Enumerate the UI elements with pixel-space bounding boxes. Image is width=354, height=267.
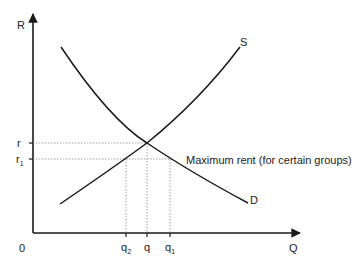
r-label: r xyxy=(17,137,21,149)
rent-control-diagram: R Q 0 S D r r1 q2 q q1 Maximum rent (for… xyxy=(0,0,354,267)
q1-label: q1 xyxy=(165,241,175,255)
supply-curve xyxy=(60,47,240,204)
maximum-rent-annotation: Maximum rent (for certain groups) xyxy=(186,154,352,166)
demand-label: D xyxy=(250,194,258,206)
y-axis-label: R xyxy=(17,19,25,31)
q-label: q xyxy=(144,241,150,253)
q2-label: q2 xyxy=(121,241,131,255)
demand-curve xyxy=(61,47,248,203)
r1-label: r1 xyxy=(16,153,24,167)
origin-label: 0 xyxy=(19,242,25,254)
x-axis-label: Q xyxy=(289,242,298,254)
supply-label: S xyxy=(240,36,247,48)
